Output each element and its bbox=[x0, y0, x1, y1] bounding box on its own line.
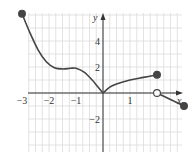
open-point-icon bbox=[154, 90, 161, 97]
grid bbox=[28, 13, 182, 152]
y-tick-label: 2 bbox=[95, 62, 100, 73]
x-tick-label: −1 bbox=[71, 95, 82, 106]
x-tick-label: 1 bbox=[128, 95, 133, 106]
y-axis-arrow-icon bbox=[101, 13, 106, 20]
filled-point-icon bbox=[19, 10, 26, 17]
function-graph: x y −3−2−1142−2 bbox=[0, 0, 196, 156]
x-tick-label: −3 bbox=[17, 95, 28, 106]
y-axis-label: y bbox=[92, 12, 98, 23]
filled-point-icon bbox=[154, 71, 161, 78]
axes: x y bbox=[28, 12, 183, 152]
tick-labels: −3−2−1142−2 bbox=[17, 36, 133, 125]
x-tick-label: −2 bbox=[44, 95, 55, 106]
filled-point-icon bbox=[181, 103, 188, 110]
y-tick-label: −2 bbox=[89, 114, 100, 125]
y-tick-label: 4 bbox=[95, 36, 100, 47]
